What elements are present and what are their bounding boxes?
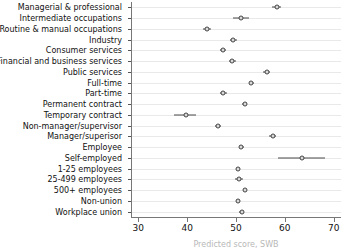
data-point-marker (299, 155, 304, 160)
data-point-marker (216, 123, 221, 128)
x-axis-tick (236, 218, 237, 222)
gridline (131, 136, 341, 137)
category-label: Intermediate occupations (20, 14, 122, 23)
data-point-marker (264, 69, 269, 74)
gridline (131, 104, 341, 105)
gridline (131, 212, 341, 213)
data-point-marker (249, 80, 254, 85)
data-point-marker (242, 102, 247, 107)
x-axis-tick-label: 50 (230, 223, 241, 234)
category-label: Permanent contract (43, 100, 122, 109)
x-axis-title: Predicted score, SWB (131, 240, 341, 249)
category-label: Full-time (87, 78, 122, 87)
gridline (131, 29, 341, 30)
x-axis-tick (285, 218, 286, 222)
category-label: Self-employed (65, 153, 122, 162)
data-point-marker (183, 112, 188, 117)
plot-area (131, 2, 341, 217)
data-point-marker (239, 209, 244, 214)
category-label: 1-25 employees (58, 164, 122, 173)
category-label: Non-union (81, 196, 122, 205)
data-point-marker (231, 37, 236, 42)
category-label: Temporary contract (44, 110, 122, 119)
y-axis-line (131, 2, 132, 217)
data-point-marker (239, 145, 244, 150)
category-label: 500+ employees (54, 186, 122, 195)
gridline (131, 126, 341, 127)
gridline (131, 147, 341, 148)
category-label: Consumer services (46, 46, 122, 55)
x-axis-tick (334, 218, 335, 222)
data-point-marker (238, 16, 243, 21)
x-axis-tick (138, 218, 139, 222)
gridline (131, 190, 341, 191)
category-label: Non-manager/supervisor (23, 121, 122, 130)
category-label: Managerial & professional (18, 3, 122, 12)
x-axis-tick-label: 70 (328, 223, 339, 234)
gridline (131, 83, 341, 84)
category-label: Public services (63, 67, 122, 76)
x-axis-tick-label: 30 (133, 223, 144, 234)
gridline (131, 93, 341, 94)
gridline (131, 61, 341, 62)
data-point-marker (235, 198, 240, 203)
category-label: Financial and business services (0, 57, 122, 66)
category-axis-labels: Managerial & professionalIntermediate oc… (0, 0, 128, 217)
gridline (131, 7, 341, 8)
data-point-marker (242, 188, 247, 193)
x-axis-tick-label: 40 (181, 223, 192, 234)
category-label: Workplace union (55, 207, 122, 216)
dot-plot-chart: Managerial & professionalIntermediate oc… (0, 0, 343, 251)
category-label: Manager/superisor (47, 132, 122, 141)
data-point-marker (270, 134, 275, 139)
category-label: Industry (89, 35, 122, 44)
data-point-marker (204, 26, 209, 31)
category-label: 25-499 employees (47, 175, 122, 184)
category-label: Employee (82, 143, 122, 152)
x-axis-tick (187, 218, 188, 222)
data-point-marker (221, 48, 226, 53)
gridline (131, 115, 341, 116)
data-point-marker (236, 177, 241, 182)
gridline (131, 72, 341, 73)
data-point-marker (236, 166, 241, 171)
category-label: Part-time (85, 89, 122, 98)
x-axis-tick-label: 60 (279, 223, 290, 234)
category-label: Routine & manual occupations (0, 24, 122, 33)
data-point-marker (221, 91, 226, 96)
data-point-marker (230, 59, 235, 64)
gridline (131, 50, 341, 51)
data-point-marker (274, 5, 279, 10)
